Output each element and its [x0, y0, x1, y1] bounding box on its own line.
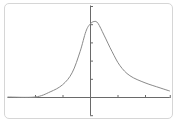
curve-line [8, 21, 170, 97]
function-plot [0, 0, 176, 125]
axes [8, 6, 171, 116]
